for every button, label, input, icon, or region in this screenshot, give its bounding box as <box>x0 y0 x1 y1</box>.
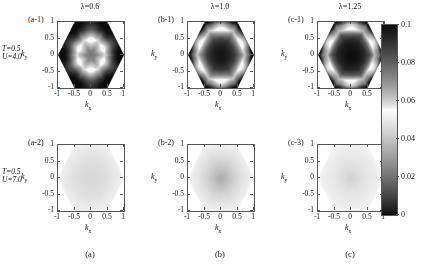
x-axis-label-subscript: x <box>219 228 222 234</box>
x-tick-top <box>350 144 351 147</box>
x-tick-label: 1 <box>251 213 255 221</box>
column-title-a: λ=0.6 <box>81 3 99 11</box>
x-axis-label: kx <box>215 224 221 234</box>
x-tick-top <box>367 21 368 24</box>
row-params-bottom: T=0.5U=7.0 <box>2 168 22 185</box>
y-tick-label: 1 <box>35 140 54 148</box>
y-tick-label: -0.5 <box>35 190 54 198</box>
x-tick <box>350 84 351 87</box>
x-tick-top <box>253 21 254 24</box>
y-axis-label: ky <box>151 50 157 60</box>
colorbar-tick <box>396 214 399 215</box>
y-tick <box>187 210 190 211</box>
x-tick-label: -1 <box>314 213 320 221</box>
y-tick <box>187 144 190 145</box>
y-tick-label: 0 <box>165 173 184 181</box>
colorbar-tick-label: 0.06 <box>401 96 415 105</box>
x-axis-label-subscript: x <box>349 105 352 111</box>
y-tick <box>57 144 60 145</box>
x-tick <box>253 84 254 87</box>
x-tick-label: -0.5 <box>328 213 340 221</box>
x-tick <box>237 207 238 210</box>
x-tick <box>204 207 205 210</box>
colorbar-tick <box>396 62 399 63</box>
row-params-top: T=0.5U=4.0 <box>2 45 22 62</box>
x-tick-label: 1 <box>121 90 125 98</box>
x-tick-label: 0 <box>348 213 352 221</box>
y-axis-label-subscript: y <box>155 177 158 183</box>
y-tick <box>317 54 320 55</box>
colorbar-tick <box>396 100 399 101</box>
x-tick <box>350 207 351 210</box>
x-tick-label: 0 <box>88 90 92 98</box>
y-tick-label: 0.5 <box>295 34 314 42</box>
y-axis-label-subscript: y <box>285 177 288 183</box>
y-axis-label: ky <box>151 173 157 183</box>
y-tick-right <box>120 144 123 145</box>
x-tick <box>107 84 108 87</box>
x-axis-label: kx <box>215 101 221 111</box>
x-axis-label: kx <box>85 101 91 111</box>
y-tick <box>187 54 190 55</box>
y-axis-label-subscript: y <box>25 54 28 60</box>
x-tick-label: 1 <box>251 90 255 98</box>
y-tick <box>187 71 190 72</box>
x-tick-top <box>107 144 108 147</box>
y-tick <box>317 161 320 162</box>
y-tick <box>57 71 60 72</box>
colorbar <box>381 24 398 216</box>
x-tick <box>107 207 108 210</box>
y-tick <box>317 177 320 178</box>
y-tick-right <box>120 210 123 211</box>
y-tick-right <box>250 38 253 39</box>
x-tick <box>220 84 221 87</box>
heatmap-canvas-b-2 <box>188 145 254 211</box>
y-tick <box>187 87 190 88</box>
x-tick <box>334 84 335 87</box>
x-tick-label: 0.5 <box>232 213 241 221</box>
column-caption-a: (a) <box>85 250 94 259</box>
row-param-interaction: U=7.0 <box>2 176 22 184</box>
colorbar-tick-label: 0.08 <box>401 58 415 67</box>
y-tick-right <box>120 194 123 195</box>
y-tick <box>187 161 190 162</box>
column-caption-c: (c) <box>345 250 354 259</box>
y-tick-label: -0.5 <box>165 67 184 75</box>
x-tick <box>90 207 91 210</box>
x-tick-top <box>237 144 238 147</box>
x-tick-label: -1 <box>184 90 190 98</box>
y-tick-label: -0.5 <box>165 190 184 198</box>
y-tick <box>187 21 190 22</box>
y-tick-label: -1 <box>35 83 54 91</box>
x-tick-label: -1 <box>184 213 190 221</box>
plot-area-c-3 <box>317 144 385 212</box>
y-tick-label: -1 <box>295 83 314 91</box>
heatmap-canvas-c-1 <box>318 22 384 88</box>
x-tick <box>123 207 124 210</box>
x-tick-top <box>204 21 205 24</box>
x-tick-label: 0.5 <box>232 90 241 98</box>
y-tick-right <box>120 177 123 178</box>
x-tick-top <box>204 144 205 147</box>
x-tick <box>74 84 75 87</box>
x-tick-label: 0 <box>348 90 352 98</box>
x-tick <box>367 84 368 87</box>
y-tick <box>187 194 190 195</box>
y-tick-label: 0.5 <box>35 34 54 42</box>
column-title-b: λ=1.0 <box>211 3 229 11</box>
y-tick <box>57 177 60 178</box>
y-tick-label: 0.5 <box>35 157 54 165</box>
x-tick <box>220 207 221 210</box>
y-tick-label: 0 <box>35 173 54 181</box>
x-tick-label: -0.5 <box>68 90 80 98</box>
y-tick-label: 0.5 <box>165 34 184 42</box>
x-axis-label: kx <box>345 224 351 234</box>
y-tick-label: 1 <box>295 17 314 25</box>
y-tick-label: 0.5 <box>295 157 314 165</box>
heatmap-canvas-a-1 <box>58 22 124 88</box>
y-tick-label: 0 <box>165 50 184 58</box>
plot-area-b-2 <box>187 144 255 212</box>
x-tick-top <box>220 144 221 147</box>
y-tick-right <box>120 38 123 39</box>
y-tick <box>317 210 320 211</box>
